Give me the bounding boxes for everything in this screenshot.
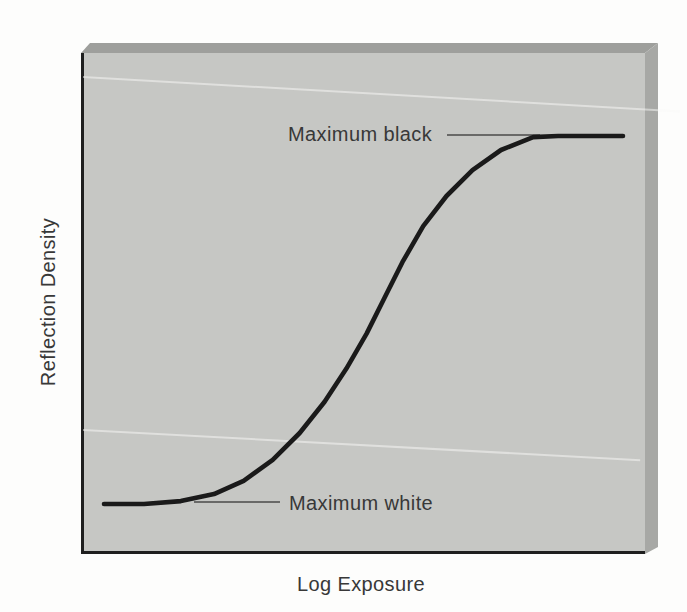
characteristic-curve-figure: Maximum black Maximum white Reflection D… xyxy=(0,0,687,612)
panel-right-bevel xyxy=(645,43,658,554)
annotation-maximum-white: Maximum white xyxy=(289,491,433,515)
x-axis-label: Log Exposure xyxy=(297,572,425,596)
annotation-maximum-black: Maximum black xyxy=(288,122,432,146)
panel-top-bevel xyxy=(81,43,659,53)
y-axis-label: Reflection Density xyxy=(36,218,60,386)
